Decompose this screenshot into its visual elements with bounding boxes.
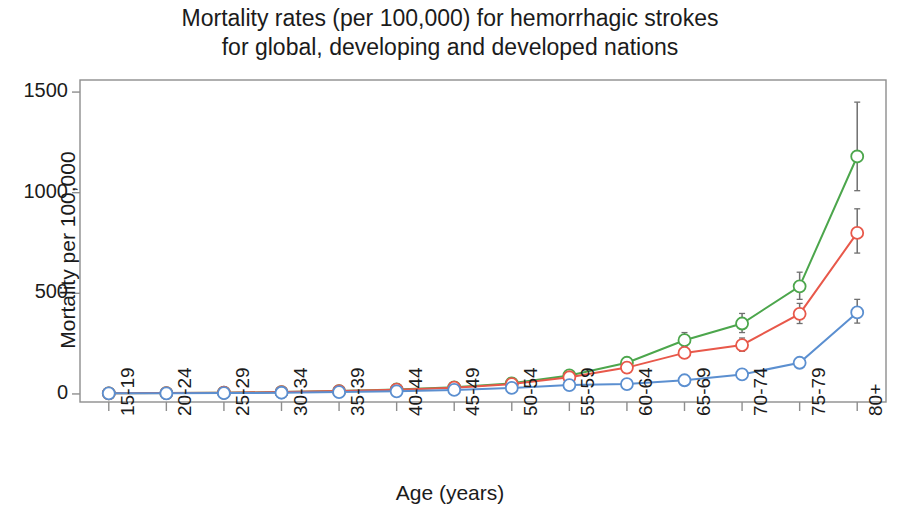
data-point-marker [736,339,748,351]
x-tick-label: 80+ [865,384,887,416]
data-point-marker [794,357,806,369]
data-point-marker [103,387,115,399]
data-point-marker [160,387,172,399]
x-tick-label: 40-44 [405,367,427,416]
data-point-marker [333,386,345,398]
chart-canvas [0,0,900,510]
data-point-marker [736,318,748,330]
plot-area: Mortality per 100,000 Age (years) 050010… [0,0,900,510]
data-point-marker [391,385,403,397]
data-point-marker [679,347,691,359]
x-tick-label: 20-24 [174,367,196,416]
x-tick-label: 65-69 [693,367,715,416]
data-point-marker [851,150,863,162]
x-tick-label: 45-49 [462,367,484,416]
data-point-marker [736,368,748,380]
x-tick-label: 55-59 [577,367,599,416]
plot-frame [80,80,886,402]
data-point-marker [679,334,691,346]
data-point-marker [679,374,691,386]
x-tick-label: 15-19 [117,367,139,416]
data-point-marker [506,382,518,394]
data-point-marker [851,306,863,318]
y-tick-label: 1000 [4,180,68,203]
data-point-marker [851,227,863,239]
y-tick-label: 0 [4,381,68,404]
x-tick-label: 50-54 [520,367,542,416]
y-tick-label: 500 [4,280,68,303]
x-tick-label: 25-29 [232,367,254,416]
data-point-marker [621,362,633,374]
data-point-marker [621,378,633,390]
data-point-marker [218,387,230,399]
data-point-marker [563,379,575,391]
x-tick-label: 30-34 [290,367,312,416]
chart-figure: Mortality rates (per 100,000) for hemorr… [0,0,900,510]
y-axis-title: Mortality per 100,000 [56,90,80,410]
x-tick-label: 35-39 [347,367,369,416]
data-point-marker [794,280,806,292]
y-tick-label: 1500 [4,79,68,102]
data-point-marker [448,384,460,396]
data-point-marker [276,387,288,399]
x-tick-label: 70-74 [750,367,772,416]
x-tick-label: 60-64 [635,367,657,416]
x-tick-label: 75-79 [808,367,830,416]
x-axis-title: Age (years) [0,481,900,505]
data-point-marker [794,308,806,320]
